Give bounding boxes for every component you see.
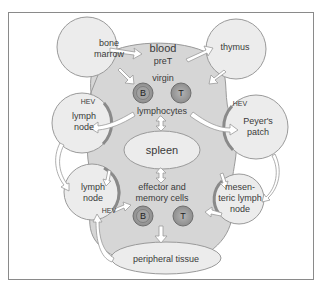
mesenteric-label-3: node bbox=[230, 204, 250, 214]
mesenteric-label-1: mesen- bbox=[225, 182, 255, 192]
lymph-node-top-label-1: lymph bbox=[72, 111, 96, 121]
thymus-label: thymus bbox=[220, 42, 250, 52]
hev-label-top-right: HEV bbox=[233, 100, 248, 107]
bone-marrow-label-1: bone bbox=[99, 38, 119, 48]
effector-b-label: B bbox=[140, 211, 146, 221]
lymphocyte-recirculation-diagram: blood preT bone marrow thymus virgin lym… bbox=[0, 0, 322, 294]
peyers-patch-label-1: Peyer's bbox=[243, 116, 273, 126]
peyers-patch-label-2: patch bbox=[247, 127, 269, 137]
hev-label-bottom-left: HEV bbox=[102, 207, 117, 214]
blood-label: blood bbox=[150, 42, 177, 54]
effector-t-label: T bbox=[180, 211, 186, 221]
b-cell-label: B bbox=[140, 88, 146, 98]
peripheral-tissue-label: peripheral tissue bbox=[133, 254, 199, 264]
effector-label-1: effector and bbox=[138, 182, 185, 192]
effector-label-2: memory cells bbox=[135, 193, 189, 203]
lymphocytes-label: lymphocytes bbox=[137, 106, 188, 116]
virgin-label: virgin bbox=[152, 73, 174, 83]
bone-marrow-label-2: marrow bbox=[94, 49, 125, 59]
t-cell-label: T bbox=[178, 88, 184, 98]
lymph-node-top-label-2: node bbox=[74, 122, 94, 132]
spleen-label: spleen bbox=[146, 144, 178, 156]
pret-label: preT bbox=[154, 56, 173, 66]
mesenteric-label-2: teric lymph bbox=[218, 193, 262, 203]
lymph-node-bottom-label-2: node bbox=[83, 193, 103, 203]
hev-label-top-left: HEV bbox=[81, 98, 96, 105]
lymph-node-bottom-label-1: lymph bbox=[81, 182, 105, 192]
